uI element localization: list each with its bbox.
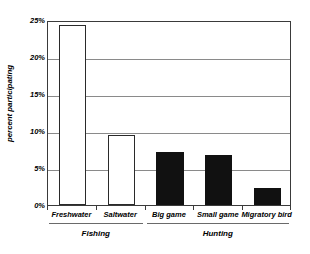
bar-freshwater — [59, 25, 86, 205]
y-axis-tick-labels: 25%20%15%10%5%0% — [18, 0, 45, 206]
y-axis-title: percent participating — [0, 0, 20, 206]
y-axis-tick-label: 25% — [18, 17, 45, 25]
bar-big-game — [156, 152, 183, 205]
group-underline-hunting — [147, 223, 289, 224]
bar-series — [48, 22, 290, 205]
y-axis-tick-label: 20% — [18, 54, 45, 62]
group-underlines — [47, 223, 291, 224]
group-underline-fishing — [49, 223, 143, 224]
plot-area — [47, 21, 291, 206]
category-label-migratory-bird: Migratory bird — [238, 210, 295, 220]
group-label-hunting: Hunting — [147, 228, 289, 239]
group-label-fishing: Fishing — [49, 228, 143, 239]
x-axis-category-labels: FreshwaterSaltwaterBig gameSmall gameMig… — [47, 210, 291, 224]
y-axis-tick-label: 10% — [18, 128, 45, 136]
y-axis-tick-label: 15% — [18, 91, 45, 99]
bar-saltwater — [108, 135, 135, 205]
bar-small-game — [205, 155, 232, 205]
y-axis-title-text: percent participating — [6, 64, 15, 141]
bar-migratory-bird — [254, 188, 281, 205]
y-axis-tick-label: 5% — [18, 165, 45, 173]
group-labels: FishingHunting — [47, 228, 291, 242]
chart-figure: percent participating 25%20%15%10%5%0% F… — [0, 0, 310, 254]
y-axis-tick-label: 0% — [18, 202, 45, 210]
